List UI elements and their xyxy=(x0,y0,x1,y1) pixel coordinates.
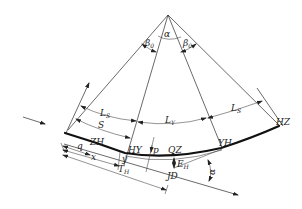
beta-right-label: β0 xyxy=(182,38,192,49)
ext-line-zh xyxy=(61,143,65,153)
alpha-top-label: α xyxy=(164,29,170,39)
ext-line-jd xyxy=(165,185,168,194)
hz-label: HZ xyxy=(275,117,291,127)
qz-label: QZ xyxy=(168,145,182,155)
ly-label: LY xyxy=(164,115,176,126)
incoming-direction-arrow xyxy=(23,117,45,124)
yh-label: YH xyxy=(218,138,232,148)
radial-line-yh xyxy=(168,15,222,148)
jd-label: JD xyxy=(165,171,178,181)
length-dimension-arcs: LS LY LS xyxy=(81,101,262,126)
th-label: TH xyxy=(118,164,130,175)
ls-left-label: LS xyxy=(99,108,110,119)
y-label: y xyxy=(121,154,128,164)
s-label: S xyxy=(98,120,104,130)
th-dimension xyxy=(63,155,166,190)
p-label: p xyxy=(153,145,159,155)
hy-label: HY xyxy=(127,145,143,155)
alpha-right-label: α xyxy=(207,169,217,175)
radial-line-zh xyxy=(68,15,168,130)
q-label: q xyxy=(77,141,83,151)
beta-left-label: β0 xyxy=(144,38,154,49)
ls-right-label: LS xyxy=(230,103,241,114)
zh-label: ZH xyxy=(89,137,104,147)
x-label: x xyxy=(91,152,96,162)
apex-angles: α β0 β0 xyxy=(142,29,196,52)
transition-curve-diagram: α β0 β0 LS LY LS S q x y TH xyxy=(0,0,302,209)
eh-label: EH xyxy=(176,159,190,170)
radial-line-hz xyxy=(168,15,280,126)
